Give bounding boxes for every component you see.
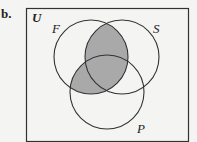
set-label-s: S	[153, 21, 160, 36]
set-label-p: P	[136, 121, 145, 136]
set-label-f: F	[51, 21, 61, 36]
universe-label: U	[32, 10, 42, 25]
venn-diagram: U F S P	[0, 0, 197, 142]
shaded-region	[70, 20, 159, 129]
